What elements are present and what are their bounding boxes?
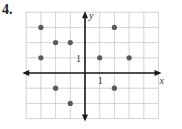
data-point (68, 101, 73, 106)
x-tick-label: 1 (98, 75, 103, 86)
data-point (53, 40, 58, 45)
data-point (38, 55, 43, 60)
data-point (112, 86, 117, 91)
y-axis-label: y (88, 10, 94, 21)
data-point (97, 55, 102, 60)
coordinate-plane: x y 1 1 (0, 0, 182, 129)
data-point (112, 25, 117, 30)
x-axis-arrow-left-icon (22, 70, 29, 76)
x-axis-label: x (159, 75, 165, 86)
data-point (53, 86, 58, 91)
data-point (38, 25, 43, 30)
y-tick-label: 1 (76, 53, 81, 64)
data-point (127, 55, 132, 60)
y-axis-arrow-down-icon (82, 115, 88, 122)
grid-lines (26, 12, 158, 118)
data-point (68, 40, 73, 45)
